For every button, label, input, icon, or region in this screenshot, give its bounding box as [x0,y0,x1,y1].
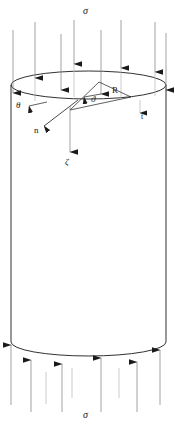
radius-label: R [112,86,118,95]
theta-inner-label: ϑ [91,95,95,104]
top-rim-ellipse [11,71,166,99]
stress-cylinder-diagram: σ R θ ϑ n ζ t σ [0,0,175,433]
theta-left-arrow [29,102,47,106]
bottom-rim-front-arc [11,342,166,356]
sigma-top-label: σ [83,6,88,16]
tick-right-label: t [141,113,143,121]
theta-left-label: θ [16,101,20,110]
sigma-bottom-label: σ [83,410,88,420]
normal-label: n [34,126,39,135]
zeta-label: ζ [65,158,69,167]
cylinder-body [11,85,166,342]
diagram-canvas [0,0,175,433]
normal-vector-n [44,100,78,126]
bottom-load-arrow-group [11,345,160,412]
